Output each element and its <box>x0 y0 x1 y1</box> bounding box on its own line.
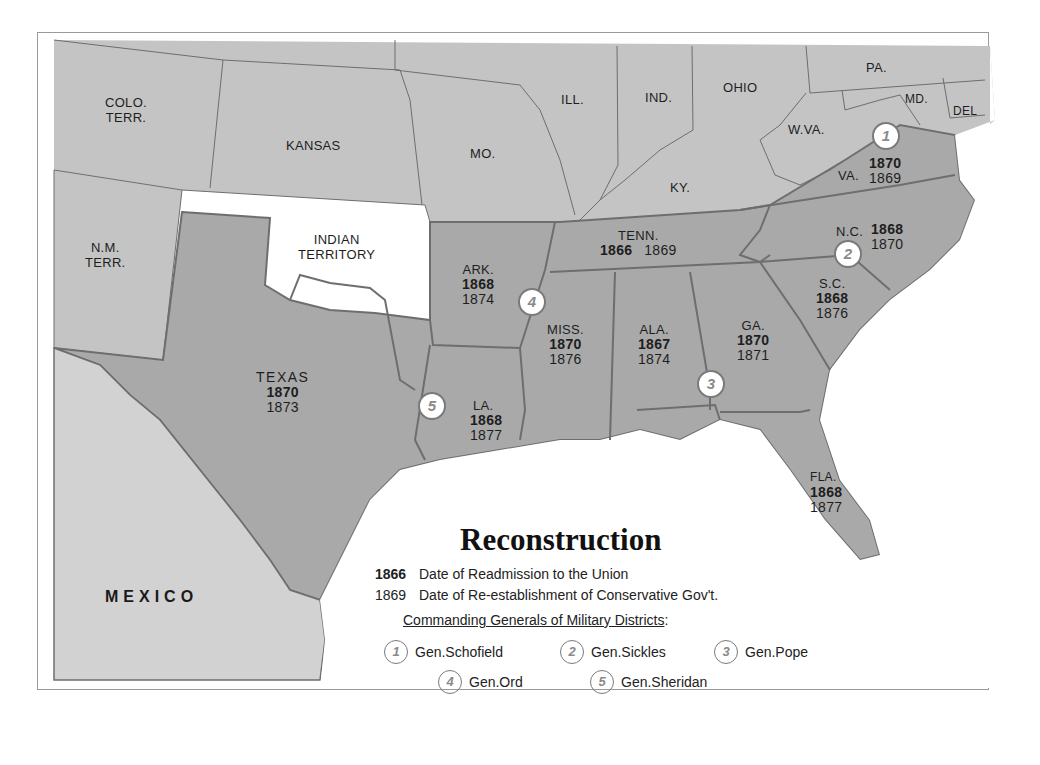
general-name: Gen.Pope <box>745 644 808 660</box>
region-pennsylvania: PA. <box>866 60 887 75</box>
legend-readmission: 1866Date of Readmission to the Union <box>375 566 628 582</box>
conservative-year: 1873 <box>256 400 309 415</box>
region-label: ILL. <box>561 92 584 107</box>
state-texas: TEXAS 1870 1873 <box>256 370 309 415</box>
readmission-year: 1870 <box>737 333 769 348</box>
region-label: MO. <box>470 146 495 161</box>
region-kentucky: KY. <box>670 180 690 195</box>
readmission-year: 1870 <box>869 156 901 171</box>
readmission-year: 1868 <box>871 222 903 237</box>
region-missouri: MO. <box>470 146 495 161</box>
legend-general-3: 3Gen.Pope <box>714 640 808 664</box>
region-kansas: KANSAS <box>286 138 341 153</box>
map-title: Reconstruction <box>460 522 661 558</box>
general-name: Gen.Sheridan <box>621 674 707 690</box>
region-label: W.VA. <box>788 122 825 137</box>
conservative-year: 1876 <box>547 352 584 367</box>
state-name: LA. <box>473 398 502 413</box>
district-circle-icon: 3 <box>714 640 738 664</box>
readmission-year: 1868 <box>462 277 494 292</box>
district-circle-icon: 1 <box>384 640 408 664</box>
legend-general-4: 4Gen.Ord <box>438 670 523 694</box>
legend-conservative: 1869Date of Re-establishment of Conserva… <box>375 587 718 603</box>
readmission-year: 1868 <box>816 291 848 306</box>
region-label: INDIAN <box>298 232 375 247</box>
state-alabama: ALA. 1867 1874 <box>638 322 670 367</box>
state-name: VA. <box>838 168 859 183</box>
legend-conservative-sample: 1869 <box>375 587 419 603</box>
state-name: N.C. <box>836 224 863 239</box>
legend-general-1: 1Gen.Schofield <box>384 640 503 664</box>
legend-readmission-sample: 1866 <box>375 566 419 582</box>
district-marker-2: 2 <box>834 240 862 268</box>
state-name: MISS. <box>547 322 584 337</box>
region-label: PA. <box>866 60 887 75</box>
region-west-virginia: W.VA. <box>788 122 825 137</box>
district-circle-icon: 4 <box>438 670 462 694</box>
state-florida: FLA. 1868 1877 <box>810 470 842 515</box>
region-label: N.M. <box>85 240 126 255</box>
region-ohio: OHIO <box>723 80 757 95</box>
region-label: OHIO <box>723 80 757 95</box>
district-circle-icon: 2 <box>560 640 584 664</box>
state-name: ARK. <box>462 262 494 277</box>
region-label: MD. <box>905 92 928 107</box>
state-louisiana: LA. 1868 1877 <box>470 398 502 443</box>
readmission-year: 1868 <box>470 413 502 428</box>
state-name: TEXAS <box>256 370 309 385</box>
state-name: TENN. <box>600 228 677 243</box>
state-name: GA. <box>737 318 769 333</box>
district-marker-5: 5 <box>418 392 446 420</box>
district-marker-4: 4 <box>518 288 546 316</box>
region-label: KY. <box>670 180 690 195</box>
conservative-year: 1874 <box>462 292 494 307</box>
region-label: IND. <box>645 90 672 105</box>
generals-heading-colon: : <box>664 612 668 628</box>
conservative-year: 1874 <box>638 352 670 367</box>
region-nm-terr: N.M. TERR. <box>85 240 126 270</box>
conservative-year: 1869 <box>644 242 676 258</box>
region-mexico: MEXICO <box>105 588 198 606</box>
region-label: TERR. <box>85 255 126 270</box>
readmission-year: 1866 <box>600 242 632 258</box>
legend-general-5: 5Gen.Sheridan <box>590 670 707 694</box>
state-south-carolina: S.C. 1868 1876 <box>816 276 848 321</box>
readmission-year: 1867 <box>638 337 670 352</box>
state-virginia: VA. 1870 1869 <box>838 156 901 186</box>
conservative-year: 1871 <box>737 348 769 363</box>
reconstruction-map <box>0 0 1040 765</box>
conservative-year: 1876 <box>816 306 848 321</box>
generals-heading: Commanding Generals of Military District… <box>403 612 668 628</box>
region-label: TERR. <box>105 110 147 125</box>
state-arkansas: ARK. 1868 1874 <box>462 262 494 307</box>
state-name: FLA. <box>810 470 842 485</box>
region-label: TERRITORY <box>298 247 375 262</box>
conservative-year: 1877 <box>810 500 842 515</box>
region-label: KANSAS <box>286 138 341 153</box>
district-marker-1: 1 <box>872 122 900 150</box>
state-georgia: GA. 1870 1871 <box>737 318 769 363</box>
state-name: ALA. <box>638 322 670 337</box>
readmission-year: 1870 <box>256 385 309 400</box>
region-delaware: DEL <box>953 104 977 119</box>
conservative-year: 1877 <box>470 428 502 443</box>
region-maryland: MD. <box>905 92 928 107</box>
general-name: Gen.Schofield <box>415 644 503 660</box>
region-indiana: IND. <box>645 90 672 105</box>
legend-general-2: 2Gen.Sickles <box>560 640 666 664</box>
conservative-year: 1870 <box>871 237 903 252</box>
general-name: Gen.Sickles <box>591 644 666 660</box>
general-name: Gen.Ord <box>469 674 523 690</box>
state-tennessee: TENN. 1866 1869 <box>600 228 677 258</box>
readmission-year: 1870 <box>547 337 584 352</box>
generals-heading-text: Commanding Generals of Military District… <box>403 612 664 628</box>
district-marker-3: 3 <box>697 370 725 398</box>
state-name: S.C. <box>816 276 848 291</box>
region-colo-terr: COLO. TERR. <box>105 95 147 125</box>
region-illinois: ILL. <box>561 92 584 107</box>
legend-conservative-text: Date of Re-establishment of Conservative… <box>419 587 718 603</box>
conservative-year: 1869 <box>869 171 901 186</box>
region-label: COLO. <box>105 95 147 110</box>
legend-readmission-text: Date of Readmission to the Union <box>419 566 628 582</box>
readmission-year: 1868 <box>810 485 842 500</box>
